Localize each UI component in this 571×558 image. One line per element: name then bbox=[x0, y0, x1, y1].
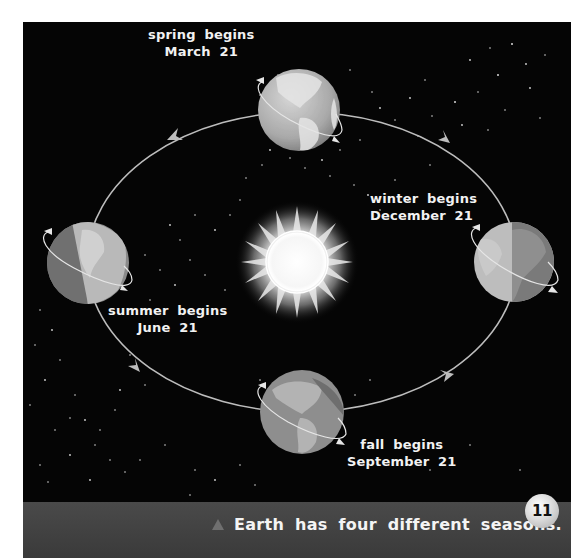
season-label-summer: summer begins June 21 bbox=[108, 302, 227, 336]
sun bbox=[235, 200, 359, 324]
season-label-summer-line2: June 21 bbox=[108, 319, 227, 336]
page-number: 11 bbox=[532, 502, 552, 520]
triangle-icon bbox=[212, 519, 224, 530]
seasons-diagram bbox=[0, 0, 571, 558]
season-label-fall-line2: September 21 bbox=[347, 453, 457, 470]
page-number-badge: 11 bbox=[525, 494, 559, 528]
season-label-fall-line1: fall begins bbox=[347, 436, 457, 453]
season-label-summer-line1: summer begins bbox=[108, 302, 227, 319]
season-label-fall: fall begins September 21 bbox=[347, 436, 457, 470]
season-label-winter-line1: winter begins bbox=[370, 190, 477, 207]
caption-text: Earth has four different seasons. bbox=[234, 515, 562, 534]
sun-core bbox=[266, 231, 328, 293]
caption: Earth has four different seasons. bbox=[212, 510, 562, 538]
season-label-winter-line2: December 21 bbox=[370, 207, 477, 224]
season-label-winter: winter begins December 21 bbox=[370, 190, 477, 224]
season-label-spring-line2: March 21 bbox=[148, 43, 254, 60]
season-label-spring: spring begins March 21 bbox=[148, 26, 254, 60]
season-label-spring-line1: spring begins bbox=[148, 26, 254, 43]
